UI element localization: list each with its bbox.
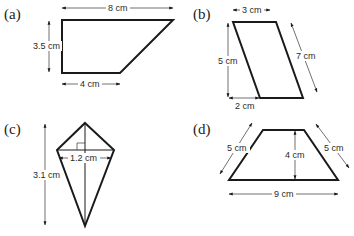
figure-c-label: (c) [4, 121, 21, 138]
figure-d: (d) 5 cm 5 cm 4 cm 9 cm [193, 121, 349, 199]
trapezoid-d-shape [229, 130, 338, 180]
figures-canvas: (a) 8 cm 3.5 cm 4 cm (b) 3 cm 5 cm 7 cm … [0, 0, 354, 236]
measure-c-short: 1.2 cm [70, 153, 97, 163]
measure-d-height: 4 cm [285, 150, 305, 160]
figure-d-label: (d) [193, 121, 211, 138]
figure-b-label: (b) [193, 6, 211, 23]
measure-b-height: 5 cm [218, 56, 238, 66]
figure-a-label: (a) [4, 6, 21, 23]
measure-d-bottom: 9 cm [274, 189, 294, 199]
right-angle-marker [77, 143, 85, 150]
figure-a: (a) 8 cm 3.5 cm 4 cm [4, 3, 173, 89]
measure-b-slant: 7 cm [296, 51, 316, 61]
measure-c-long: 3.1 cm [33, 170, 60, 180]
measure-d-right: 5 cm [324, 143, 344, 153]
measure-a-height: 3.5 cm [33, 41, 60, 51]
measure-b-top: 3 cm [242, 5, 262, 15]
measure-b-offset: 2 cm [235, 101, 255, 111]
measure-d-left: 5 cm [227, 143, 247, 153]
measure-a-top: 8 cm [108, 3, 128, 13]
figure-c: (c) 3.1 cm 1.2 cm [4, 121, 114, 226]
trapezoid-a-shape [62, 20, 173, 73]
parallelogram-b-shape [233, 22, 303, 98]
figure-b: (b) 3 cm 5 cm 7 cm 2 cm [193, 5, 319, 111]
measure-a-bottom: 4 cm [80, 79, 100, 89]
